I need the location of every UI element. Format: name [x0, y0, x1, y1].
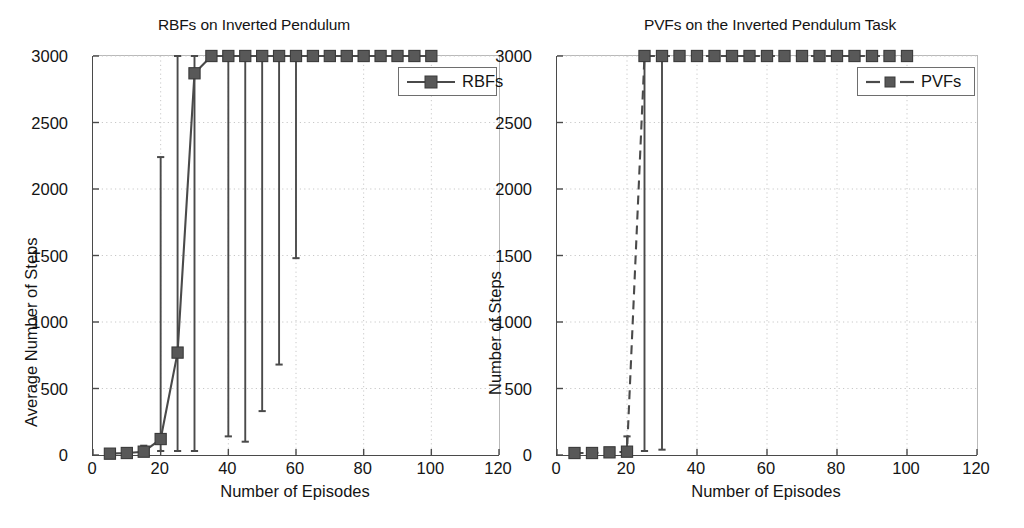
y-tick-label: 1500 — [470, 246, 532, 265]
figure-page: RBFs on Inverted Pendulum 05001000150020… — [0, 0, 1024, 528]
chart-rbf: RBFs on Inverted Pendulum 05001000150020… — [0, 0, 512, 528]
y-tick-label: 2500 — [470, 113, 532, 132]
x-tick-label: 0 — [87, 459, 96, 478]
x-tick-label: 40 — [218, 459, 236, 478]
legend-label-rbf: RBFs — [462, 72, 503, 91]
x-tick-label: 40 — [687, 459, 705, 478]
x-tick-label: 120 — [962, 459, 990, 478]
y-axis-label-rbf: Average Number of Steps — [22, 237, 41, 427]
y-tick-label: 2000 — [6, 180, 68, 199]
plot-area-rbf — [92, 56, 499, 456]
y-axis-label-pvf: Number of Steps — [486, 271, 505, 395]
legend-rbf[interactable]: RBFs — [398, 67, 497, 96]
x-tick-label: 80 — [827, 459, 845, 478]
y-tick-label: 0 — [6, 446, 68, 465]
y-tick-label: 3000 — [470, 47, 532, 66]
chart-pvf: PVFs on the Inverted Pendulum Task 05001… — [512, 0, 1024, 528]
x-tick-label: 0 — [551, 459, 560, 478]
x-tick-label: 20 — [150, 459, 168, 478]
plot-canvas-rbf — [93, 56, 503, 458]
x-tick-label: 20 — [617, 459, 635, 478]
legend-pvf[interactable]: PVFs — [857, 67, 975, 96]
y-tick-label: 0 — [470, 446, 532, 465]
chart-title-rbf: RBFs on Inverted Pendulum — [44, 16, 464, 34]
legend-swatch-pvf — [864, 73, 916, 91]
x-axis-label-pvf: Number of Episodes — [556, 482, 976, 501]
y-tick-label: 3000 — [6, 47, 68, 66]
y-tick-label: 2000 — [470, 180, 532, 199]
x-tick-label: 60 — [286, 459, 304, 478]
plot-area-pvf — [556, 56, 977, 456]
x-tick-label: 100 — [417, 459, 445, 478]
x-axis-label-rbf: Number of Episodes — [92, 482, 498, 501]
x-tick-label: 60 — [757, 459, 775, 478]
x-tick-label: 100 — [892, 459, 920, 478]
legend-swatch-rbf — [405, 73, 457, 91]
x-tick-label: 80 — [353, 459, 371, 478]
y-tick-label: 2500 — [6, 113, 68, 132]
legend-label-pvf: PVFs — [921, 72, 961, 91]
plot-canvas-pvf — [557, 56, 981, 458]
chart-title-pvf: PVFs on the Inverted Pendulum Task — [540, 16, 1000, 34]
